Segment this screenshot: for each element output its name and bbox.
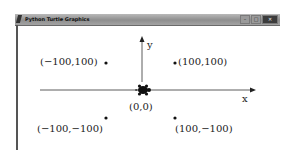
window-controls: – □ ✕	[240, 15, 278, 23]
point-dot-nw	[104, 61, 107, 64]
point-dot-sw	[104, 116, 107, 119]
x-axis-arrow-icon	[250, 88, 256, 93]
feather-icon	[16, 15, 22, 23]
y-axis-label: y	[147, 39, 153, 51]
point-dot-se	[173, 116, 176, 119]
minimize-button[interactable]: –	[240, 15, 250, 24]
close-button[interactable]: ✕	[262, 15, 278, 24]
origin-label: (0,0)	[129, 101, 153, 113]
point-dot-ne	[173, 61, 176, 64]
x-axis-label: x	[242, 93, 248, 105]
y-axis-arrow-icon	[140, 36, 145, 42]
window-title: Python Turtle Graphics	[25, 15, 90, 23]
point-label-sw: (−100,−100)	[37, 123, 103, 135]
point-label-ne: (100,100)	[178, 56, 227, 68]
point-label-nw: (−100,100)	[40, 56, 98, 68]
maximize-button[interactable]: □	[251, 15, 261, 24]
point-label-se: (100,−100)	[175, 123, 233, 135]
turtle-icon	[136, 84, 152, 95]
turtle-canvas[interactable]: y x (0,0) (−100,100) (100,100) (−100,−10…	[17, 25, 279, 153]
